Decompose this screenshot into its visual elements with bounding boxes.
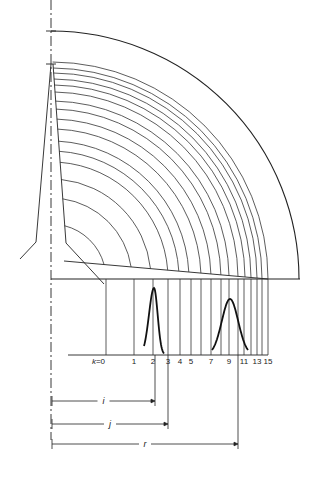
k-tick-label: 5 xyxy=(189,357,194,366)
band-arc xyxy=(59,151,179,271)
k-tick-label: 4 xyxy=(178,357,183,366)
band-arc xyxy=(63,199,132,267)
dimension-lines: ijr xyxy=(52,355,238,449)
band-arc xyxy=(64,226,104,265)
band-arc xyxy=(58,141,188,272)
narrow-peak xyxy=(144,288,164,354)
broad-peak xyxy=(212,299,248,350)
band-arc xyxy=(54,79,251,278)
k-tick-label: 11 xyxy=(240,357,249,366)
k-tick-label: k=0 xyxy=(92,357,106,366)
dim-label-r: r xyxy=(144,439,148,449)
cell-wedge-left xyxy=(20,64,51,259)
dim-label-j: j xyxy=(108,419,112,429)
k-tick-label: 1 xyxy=(132,357,137,366)
arrow-head-icon xyxy=(164,422,168,426)
arrow-head-icon xyxy=(234,442,238,446)
k-labels: k=01234579111315 xyxy=(92,357,273,366)
band-arc xyxy=(56,109,221,275)
k-tick-label: 7 xyxy=(209,357,214,366)
cell-wedge-right xyxy=(53,64,104,284)
rotor-diagram: k=01234579111315 ijr xyxy=(0,0,318,477)
k-tick-label: 15 xyxy=(264,357,273,366)
arrow-head-icon xyxy=(151,399,155,403)
band-arcs xyxy=(53,62,268,279)
k-tick-label: 9 xyxy=(227,357,232,366)
band-arc xyxy=(54,85,245,277)
band-arc xyxy=(58,129,201,273)
band-arc xyxy=(61,180,150,269)
concentration-peaks xyxy=(144,288,248,354)
outer-rotor-arc xyxy=(51,31,299,279)
dim-label-i: i xyxy=(103,396,106,406)
band-arc xyxy=(56,101,230,276)
band-arc xyxy=(53,62,268,279)
k-tick-label: 13 xyxy=(253,357,262,366)
